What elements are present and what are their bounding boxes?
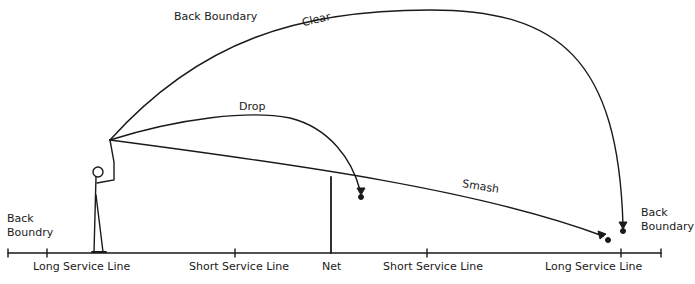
- player-head: [93, 167, 103, 177]
- short-service-line-right-label: Short Service Line: [383, 260, 483, 274]
- player-figure: [92, 140, 114, 252]
- back-boundary-left-label: Back Boundry: [7, 212, 53, 240]
- drop-label: Drop: [239, 100, 265, 114]
- clear-trajectory: [110, 10, 623, 225]
- long-service-line-left-label: Long Service Line: [33, 260, 130, 274]
- long-service-line-right-label: Long Service Line: [545, 260, 642, 274]
- net-label: Net: [322, 260, 341, 274]
- shuttle-clear-icon: [619, 222, 627, 234]
- short-service-line-left-label: Short Service Line: [189, 260, 289, 274]
- drop-trajectory: [110, 115, 360, 190]
- shuttle-smash-icon: [598, 231, 611, 243]
- back-boundary-right-label: Back Boundary: [641, 206, 694, 234]
- back-boundary-top-label: Back Boundary: [174, 10, 257, 24]
- badminton-diagram: [0, 0, 695, 284]
- shuttle-drop-icon: [357, 188, 365, 200]
